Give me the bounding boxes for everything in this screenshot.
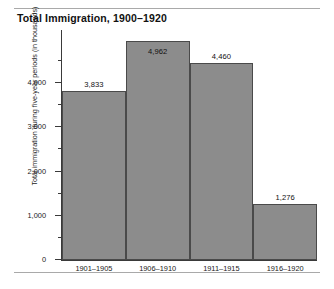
bar[interactable]: 4,962 (126, 41, 190, 261)
chart-title: Total Immigration, 1900–1920 (17, 12, 167, 24)
y-tick-major: 0 (55, 259, 62, 260)
bar[interactable]: 4,460 (190, 63, 254, 260)
y-tick-label: 0 (42, 255, 46, 264)
bar[interactable]: 1,276 (253, 204, 317, 260)
figure-bottom-rule (14, 272, 320, 273)
y-tick-major: 2,000 (55, 171, 62, 172)
bar-value-label: 3,833 (63, 80, 125, 89)
y-tick-major: 4,000 (55, 82, 62, 83)
y-tick-major: 3,000 (55, 126, 62, 127)
chart-figure: Total Immigration, 1900–1920 Total immig… (0, 0, 334, 289)
figure-top-rule (14, 8, 320, 9)
x-axis-line (61, 260, 317, 261)
bar-value-label: 4,460 (191, 52, 253, 61)
y-tick-label: 4,000 (28, 78, 47, 87)
y-tick-label: 3,000 (28, 122, 47, 131)
bar-value-label: 4,962 (127, 47, 189, 56)
bar[interactable]: 3,833 (62, 91, 126, 261)
plot-area: 0 1,000 2,000 3,000 4,000 3,833 (62, 30, 317, 260)
bar-series: 3,833 4,962 4,460 1,276 (62, 30, 317, 260)
bar-value-label: 1,276 (254, 193, 316, 202)
y-tick-label: 2,000 (28, 166, 47, 175)
y-axis-label: Total immigration during five-year perio… (31, 1, 39, 191)
y-tick-major: 1,000 (55, 215, 62, 216)
y-tick-label: 1,000 (28, 210, 47, 219)
